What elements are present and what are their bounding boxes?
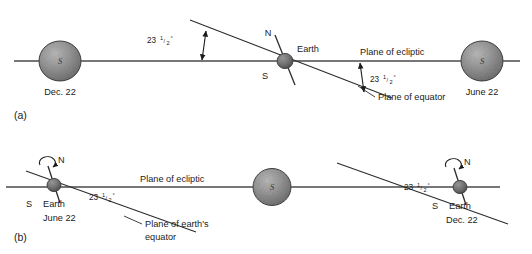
angle-fraction-denominator: 2 <box>109 197 112 203</box>
plane-of-earths-equator-label-line1: Plane of earth's <box>145 219 209 229</box>
plane-of-ecliptic-label-b: Plane of ecliptic <box>140 174 205 184</box>
earth-sphere <box>453 180 467 193</box>
plane-of-ecliptic-label-a: Plane of ecliptic <box>360 47 425 57</box>
sun-dec22-a: S Dec. 22 <box>39 41 81 97</box>
earth-caption: Earth <box>449 201 471 211</box>
earth-caption: Earth <box>297 44 319 54</box>
south-pole-label: S <box>432 201 438 211</box>
earth-sphere <box>47 178 61 191</box>
angle-fraction-denominator: 2 <box>167 40 170 46</box>
plane-of-equator-label-a: Plane of equator <box>378 92 445 102</box>
north-pole-label: N <box>265 28 272 38</box>
north-pole-label: N <box>58 155 65 165</box>
sun-date-caption: June 22 <box>466 87 499 97</box>
angle-degree-symbol: ° <box>428 182 430 188</box>
angle-number: 23 <box>147 36 157 45</box>
angle-degree-symbol: ° <box>113 192 115 198</box>
earth-sphere <box>277 53 293 68</box>
angle-number: 23 <box>89 193 99 202</box>
angle-number: 23 <box>404 183 414 192</box>
angle-degree-symbol: ° <box>394 74 396 80</box>
angle-fraction-denominator: 2 <box>424 187 427 193</box>
earth-date-caption: June 22 <box>43 213 76 223</box>
angle-degree-symbol: ° <box>171 35 173 41</box>
earth-date-caption: Dec. 22 <box>446 215 478 225</box>
panel-b-label: (b) <box>14 231 27 243</box>
sun-center-b: S <box>253 169 291 206</box>
sun-date-caption: Dec. 22 <box>44 87 76 97</box>
north-pole-label: N <box>464 157 471 167</box>
earth-caption: Earth <box>43 199 65 209</box>
plane-of-earths-equator-label-line2: equator <box>145 232 176 242</box>
panel-a-label: (a) <box>14 109 27 121</box>
south-pole-label: S <box>26 199 32 209</box>
sun-june22-a: S June 22 <box>461 41 503 97</box>
south-pole-label: S <box>262 71 268 81</box>
astronomy-diagram: S Dec. 22 N S Earth S June 22 23 1 / 2 ° <box>0 0 532 254</box>
angle-number: 23 <box>370 75 380 84</box>
angle-fraction-denominator: 2 <box>390 79 393 85</box>
